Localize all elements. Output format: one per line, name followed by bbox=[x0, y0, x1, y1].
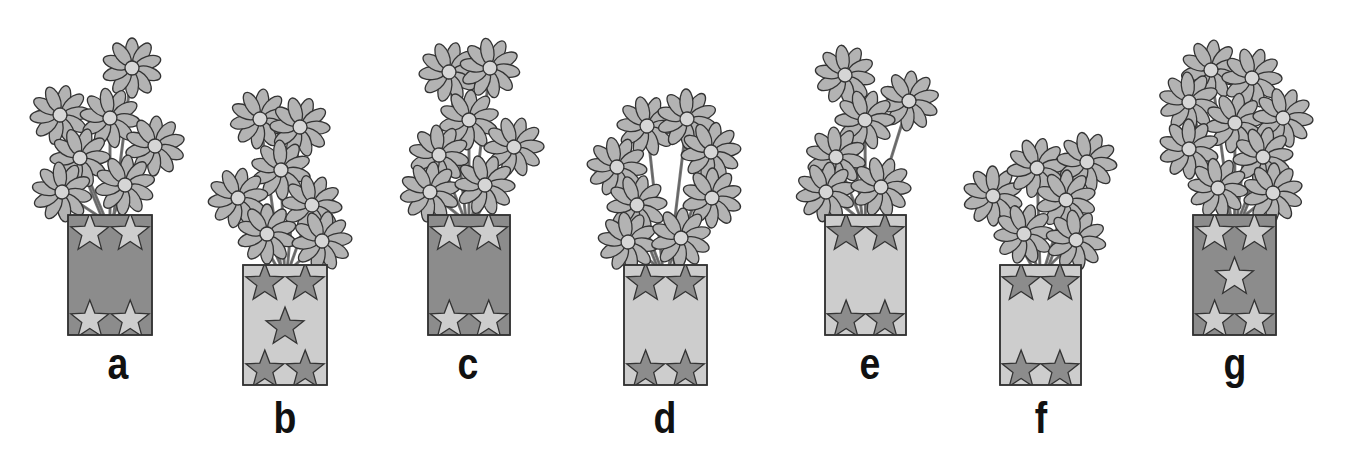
vase-icon bbox=[825, 213, 906, 336]
vase-icon bbox=[1000, 263, 1081, 386]
label-g: g bbox=[1218, 342, 1252, 386]
label-f: f bbox=[1024, 396, 1058, 440]
vase-group-d bbox=[577, 77, 747, 386]
label-d: d bbox=[648, 396, 682, 440]
vase-group-a bbox=[21, 38, 187, 336]
vase-icon bbox=[428, 213, 510, 336]
vase-group-b bbox=[203, 86, 359, 387]
vase-group-e bbox=[792, 34, 942, 336]
vase-icon bbox=[243, 263, 327, 386]
vase-icon bbox=[1193, 213, 1276, 336]
vase-icon bbox=[624, 263, 707, 386]
vase-group-c bbox=[396, 27, 552, 336]
label-a: a bbox=[101, 342, 135, 386]
label-b: b bbox=[268, 396, 302, 440]
vase-icon bbox=[68, 213, 152, 336]
label-e: e bbox=[853, 342, 887, 386]
label-c: c bbox=[451, 342, 485, 386]
flower-icon bbox=[101, 38, 162, 98]
vase-group-g bbox=[1147, 37, 1323, 336]
vase-group-f bbox=[951, 122, 1128, 386]
